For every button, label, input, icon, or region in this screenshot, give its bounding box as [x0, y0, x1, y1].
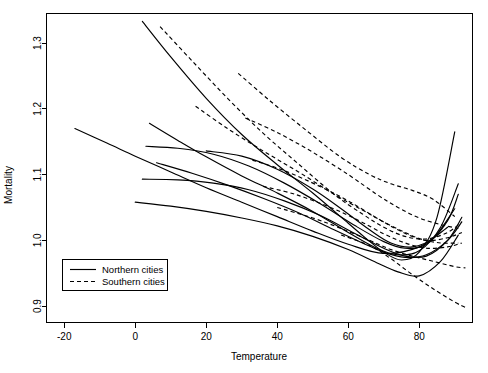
mortality-temperature-chart: 0.91.01.11.21.3 -20020406080 Temperature…: [0, 0, 488, 373]
x-axis-title: Temperature: [231, 351, 288, 362]
chart-canvas: 0.91.01.11.21.3 -20020406080 Temperature…: [0, 0, 488, 373]
x-tick-label: 60: [343, 331, 355, 342]
legend-label-southern-cities: Southern cities: [102, 276, 165, 287]
chart-legend: Northern cities Southern cities: [63, 260, 168, 291]
series-line-north-1: [75, 129, 448, 254]
legend-label-northern-cities: Northern cities: [102, 264, 163, 275]
x-tick-label: 80: [414, 331, 426, 342]
x-tick-label: 0: [132, 331, 138, 342]
series-line-south-4: [245, 118, 458, 228]
y-tick-label: 1.2: [32, 101, 43, 115]
x-axis-ticks: -20020406080: [57, 323, 425, 342]
y-tick-label: 1.3: [32, 36, 43, 50]
y-axis-title: Mortality: [3, 166, 14, 204]
x-tick-label: 40: [272, 331, 284, 342]
y-axis-ticks: 0.91.01.11.21.3: [32, 36, 47, 313]
series-line-south-1: [160, 27, 462, 240]
y-tick-label: 0.9: [32, 299, 43, 313]
series-line-north-8: [206, 151, 455, 247]
series-line-south-3: [238, 73, 455, 216]
y-tick-label: 1.1: [32, 167, 43, 181]
x-tick-label: -20: [57, 331, 72, 342]
x-tick-label: 20: [201, 331, 213, 342]
series-line-south-8: [341, 235, 465, 307]
y-tick-label: 1.0: [32, 233, 43, 247]
